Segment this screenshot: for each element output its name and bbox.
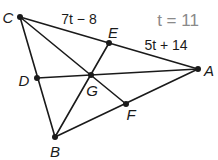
label-B: B [50, 144, 60, 159]
point-D [34, 75, 40, 81]
given-value: t = 11 [157, 12, 199, 29]
point-B [52, 134, 58, 140]
geometry-diagram: C E A D G F B 7t − 8 5t + 14 t = 11 [0, 0, 218, 160]
median-AD [37, 69, 198, 78]
point-E [106, 40, 112, 46]
label-D: D [19, 73, 30, 88]
label-G: G [86, 83, 98, 98]
label-F: F [126, 107, 135, 122]
point-A [195, 66, 201, 72]
segment-CE-expression: 7t − 8 [61, 12, 96, 26]
segment-EA-expression: 5t + 14 [144, 38, 187, 52]
point-C [17, 14, 23, 20]
point-G [88, 72, 94, 78]
label-A: A [204, 63, 214, 78]
median-BE [55, 43, 109, 137]
label-E: E [108, 25, 118, 40]
label-C: C [3, 10, 14, 25]
